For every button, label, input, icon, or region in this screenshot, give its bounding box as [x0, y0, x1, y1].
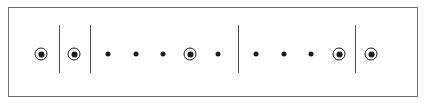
marker-6-core — [187, 51, 193, 57]
divider-4 — [355, 25, 356, 73]
marker-2-circled-dot-icon — [68, 48, 81, 61]
divider-1 — [59, 25, 60, 73]
divider-2 — [90, 25, 91, 73]
marker-5-dot-icon — [161, 52, 166, 57]
marker-12-circled-dot-icon — [365, 48, 378, 61]
marker-11-circled-dot-icon — [333, 48, 346, 61]
marker-9-dot-icon — [282, 52, 287, 57]
marker-2-core — [71, 51, 77, 57]
diagram-canvas — [0, 0, 426, 107]
marker-4-dot-icon — [134, 52, 139, 57]
marker-12-core — [368, 51, 374, 57]
marker-10-dot-icon — [309, 52, 314, 57]
marker-3-dot-icon — [106, 52, 111, 57]
marker-1-circled-dot-icon — [35, 48, 48, 61]
marker-1-core — [38, 51, 44, 57]
marker-11-core — [336, 51, 342, 57]
divider-3 — [238, 25, 239, 73]
marker-6-circled-dot-icon — [184, 48, 197, 61]
marker-8-dot-icon — [254, 52, 259, 57]
marker-7-dot-icon — [216, 52, 221, 57]
